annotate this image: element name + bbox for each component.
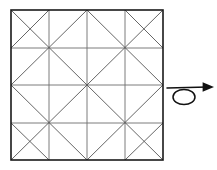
figure-container — [0, 0, 217, 170]
arrow-shaft — [167, 87, 208, 88]
figure-svg — [0, 0, 217, 170]
